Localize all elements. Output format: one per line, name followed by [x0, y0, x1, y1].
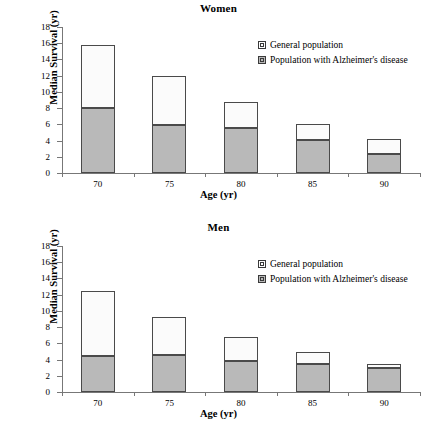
- x-axis-line-men: [62, 392, 420, 393]
- legend-swatch-alzheimer-icon: [258, 56, 266, 64]
- x-tick-label: 70: [93, 398, 102, 408]
- y-tick-label: 0: [46, 169, 51, 178]
- stacked-bar: [152, 76, 186, 173]
- y-tick-label: 6: [46, 120, 51, 129]
- bar-segment-general-population: [296, 124, 330, 140]
- stacked-bar: [224, 337, 258, 392]
- y-tick: 6: [57, 124, 62, 125]
- y-tick: 12: [57, 76, 62, 77]
- y-axis-line-men: [62, 246, 63, 392]
- legend-swatch-alzheimer-icon: [258, 275, 266, 283]
- x-tick-label: 90: [380, 179, 389, 189]
- bar-segment-alzheimer-population: [152, 125, 186, 173]
- bar-segment-general-population: [296, 352, 330, 363]
- bar-segment-alzheimer-population: [367, 368, 401, 392]
- y-tick-label: 16: [41, 39, 50, 48]
- y-tick-label: 14: [41, 274, 50, 283]
- stacked-bar: [81, 45, 115, 173]
- y-tick: 10: [57, 311, 62, 312]
- y-tick: 16: [57, 262, 62, 263]
- y-tick: 14: [57, 59, 62, 60]
- bar-segment-alzheimer-population: [224, 128, 258, 173]
- x-tick: [420, 173, 421, 177]
- bar-segment-general-population: [152, 76, 186, 125]
- y-tick-label: 4: [46, 136, 51, 145]
- x-tick: [420, 392, 421, 396]
- legend-swatch-general-icon: [258, 260, 266, 268]
- y-tick: 2: [57, 376, 62, 377]
- legend-item-alzheimer-population: Population with Alzheimer's disease: [258, 55, 408, 65]
- x-tick: [205, 392, 206, 396]
- y-tick-label: 2: [46, 371, 51, 380]
- x-tick: [134, 173, 135, 177]
- y-tick-label: 18: [41, 242, 50, 251]
- x-tick-label: 80: [237, 398, 246, 408]
- stacked-bar: [367, 139, 401, 173]
- bar-segment-alzheimer-population: [224, 361, 258, 392]
- x-tick: [62, 173, 63, 177]
- y-tick-label: 10: [41, 87, 50, 96]
- chart-panel-men: Men Median Survival (yr) 024681012141618…: [0, 219, 437, 438]
- x-tick: [277, 392, 278, 396]
- stacked-bar: [367, 364, 401, 392]
- bar-segment-general-population: [224, 102, 258, 129]
- y-tick: 12: [57, 295, 62, 296]
- y-tick: 8: [57, 108, 62, 109]
- x-tick-label: 75: [165, 179, 174, 189]
- x-tick-label: 80: [237, 179, 246, 189]
- y-tick: 14: [57, 278, 62, 279]
- x-tick-label: 75: [165, 398, 174, 408]
- y-tick-label: 8: [46, 323, 51, 332]
- y-tick-label: 10: [41, 306, 50, 315]
- legend-label-general: General population: [270, 40, 343, 50]
- stacked-bar: [152, 317, 186, 392]
- x-axis-label-women: Age (yr): [0, 189, 437, 200]
- bar-segment-general-population: [152, 317, 186, 355]
- y-tick: 18: [57, 246, 62, 247]
- y-tick-label: 16: [41, 258, 50, 267]
- legend-women: General population Population with Alzhe…: [258, 40, 408, 70]
- legend-men: General population Population with Alzhe…: [258, 259, 408, 289]
- x-tick: [134, 392, 135, 396]
- legend-swatch-general-icon: [258, 41, 266, 49]
- x-axis-line-women: [62, 173, 420, 174]
- bar-segment-alzheimer-population: [367, 154, 401, 173]
- y-tick-label: 2: [46, 152, 51, 161]
- x-tick: [348, 173, 349, 177]
- x-tick-label: 90: [380, 398, 389, 408]
- x-tick: [277, 173, 278, 177]
- chart-title-men: Men: [0, 221, 437, 233]
- x-tick-label: 85: [308, 398, 317, 408]
- y-tick-label: 14: [41, 55, 50, 64]
- y-tick-label: 4: [46, 355, 51, 364]
- x-tick: [348, 392, 349, 396]
- legend-label-alzheimer: Population with Alzheimer's disease: [270, 55, 408, 65]
- stacked-bar: [224, 102, 258, 173]
- x-tick: [205, 173, 206, 177]
- y-tick-label: 6: [46, 339, 51, 348]
- y-tick: 18: [57, 27, 62, 28]
- y-tick: 8: [57, 327, 62, 328]
- bar-segment-alzheimer-population: [296, 364, 330, 392]
- legend-label-alzheimer: Population with Alzheimer's disease: [270, 274, 408, 284]
- legend-item-general-population: General population: [258, 40, 408, 50]
- bar-segment-alzheimer-population: [81, 108, 115, 173]
- x-tick-label: 70: [93, 179, 102, 189]
- bar-segment-general-population: [224, 337, 258, 361]
- bar-segment-general-population: [367, 139, 401, 154]
- legend-label-general: General population: [270, 259, 343, 269]
- y-tick: 10: [57, 92, 62, 93]
- legend-item-general-population: General population: [258, 259, 408, 269]
- y-tick-label: 8: [46, 104, 51, 113]
- stacked-bar: [296, 352, 330, 392]
- chart-title-women: Women: [0, 2, 437, 14]
- x-tick-label: 85: [308, 179, 317, 189]
- y-axis-line-women: [62, 27, 63, 173]
- x-tick: [62, 392, 63, 396]
- y-tick: 2: [57, 157, 62, 158]
- y-tick-label: 18: [41, 23, 50, 32]
- stacked-bar: [296, 124, 330, 173]
- y-tick: 6: [57, 343, 62, 344]
- y-tick: 4: [57, 141, 62, 142]
- legend-item-alzheimer-population: Population with Alzheimer's disease: [258, 274, 408, 284]
